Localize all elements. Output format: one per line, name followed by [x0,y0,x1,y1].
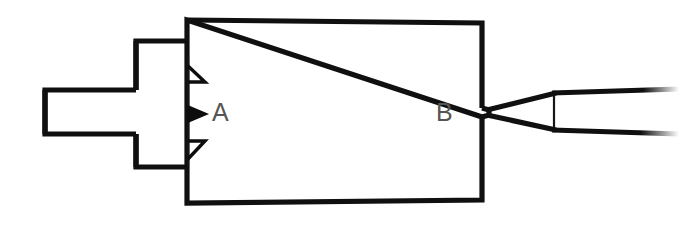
flow-arrow-middle [188,106,207,122]
chamber-label-a: A [212,98,229,126]
diverging-nozzle-cone [487,93,556,130]
diagram-canvas: A B [0,0,679,236]
schematic-drawing: A B [0,0,679,236]
inlet-duct [45,90,136,134]
throat-label-b: B [436,98,453,126]
neck-block [136,41,187,167]
exhaust-duct [552,89,679,134]
flow-arrow-bottom [188,141,205,159]
flow-arrow-top [188,66,205,82]
